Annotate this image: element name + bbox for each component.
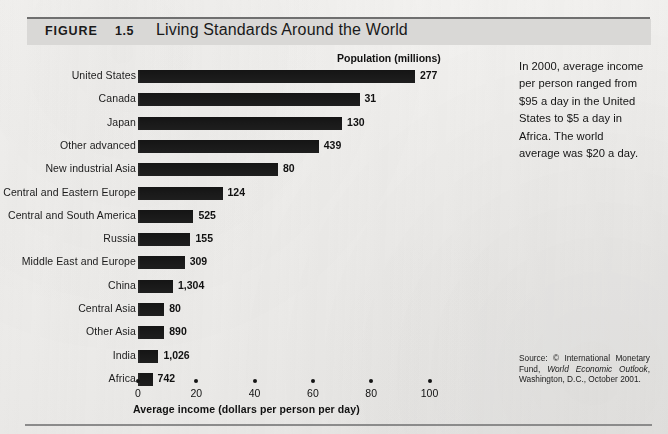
bar-population-value: 525 (198, 209, 216, 221)
bar-category-label: New industrial Asia (0, 162, 136, 174)
bar-population-value: 277 (420, 69, 438, 81)
bar-population-value: 31 (365, 92, 377, 104)
bar-population-value: 80 (169, 302, 181, 314)
source-italic-title: World Economic Outlook (547, 364, 648, 374)
bar-category-label: Canada (0, 92, 136, 104)
bar (138, 350, 158, 363)
bar-row: Middle East and Europe309 (0, 252, 490, 275)
bar (138, 210, 193, 223)
bar (138, 70, 415, 83)
bar (138, 280, 173, 293)
bar-category-label: Russia (0, 232, 136, 244)
x-axis-tick-mark (311, 379, 315, 383)
bar-category-label: Middle East and Europe (0, 255, 136, 267)
figure-kicker-label: FIGURE (45, 24, 98, 38)
bar-population-value: 890 (169, 325, 187, 337)
bar-category-label: Central and South America (0, 209, 136, 221)
x-axis-tick-mark (253, 379, 257, 383)
bar-row: United States277 (0, 66, 490, 89)
bar-category-label: Other advanced (0, 139, 136, 151)
x-axis-tick-label: 20 (190, 387, 202, 399)
bottom-rule (25, 424, 652, 426)
figure-title: Living Standards Around the World (156, 21, 408, 39)
bar (138, 117, 342, 130)
x-axis-tick-label: 60 (307, 387, 319, 399)
bar (138, 93, 360, 106)
x-axis: 020406080100 Average income (dollars per… (0, 379, 490, 429)
x-axis-tick-mark (194, 379, 198, 383)
bar-row: Russia155 (0, 229, 490, 252)
bar-category-label: Other Asia (0, 325, 136, 337)
x-axis-tick-label: 80 (365, 387, 377, 399)
bar-population-value: 80 (283, 162, 295, 174)
bar-row: China1,304 (0, 276, 490, 299)
bar-chart: Population (millions) United States277Ca… (0, 52, 490, 412)
population-column-header: Population (millions) (337, 52, 441, 64)
x-axis-tick-label: 0 (135, 387, 141, 399)
bar-row: Other Asia890 (0, 322, 490, 345)
bar-row: Central and South America525 (0, 206, 490, 229)
figure-caption: In 2000, average income per person range… (519, 58, 647, 162)
bar-category-label: Central Asia (0, 302, 136, 314)
bar-row: New industrial Asia80 (0, 159, 490, 182)
figure-page: FIGURE 1.5 Living Standards Around the W… (0, 0, 668, 434)
bar-row: Central Asia80 (0, 299, 490, 322)
bar-category-label: Japan (0, 116, 136, 128)
bar-row: Central and Eastern Europe124 (0, 183, 490, 206)
bar (138, 163, 278, 176)
x-axis-tick-mark (136, 379, 140, 383)
x-axis-tick-mark (428, 379, 432, 383)
x-axis-tick-label: 100 (421, 387, 439, 399)
bar-population-value: 309 (190, 255, 208, 267)
bar-population-value: 130 (347, 116, 365, 128)
bar-category-label: India (0, 349, 136, 361)
bar (138, 187, 223, 200)
bar-category-label: Central and Eastern Europe (0, 186, 136, 198)
bar (138, 256, 185, 269)
bar (138, 303, 164, 316)
x-axis-tick-label: 40 (249, 387, 261, 399)
source-note: Source: © International Monetary Fund, W… (519, 353, 650, 385)
bar-population-value: 155 (195, 232, 213, 244)
bar-population-value: 1,304 (178, 279, 204, 291)
figure-number-label: 1.5 (115, 24, 134, 38)
bar-population-value: 124 (228, 186, 246, 198)
bar (138, 326, 164, 339)
bar-row: India1,026 (0, 346, 490, 369)
x-axis-title: Average income (dollars per person per d… (133, 403, 360, 415)
bar-category-label: United States (0, 69, 136, 81)
bar (138, 140, 319, 153)
bar (138, 233, 190, 246)
bar-population-value: 1,026 (163, 349, 189, 361)
x-axis-tick-mark (369, 379, 373, 383)
bar-row: Other advanced439 (0, 136, 490, 159)
bar-row: Japan130 (0, 113, 490, 136)
bar-category-label: China (0, 279, 136, 291)
bar-population-value: 439 (324, 139, 342, 151)
bar-row: Canada31 (0, 89, 490, 112)
